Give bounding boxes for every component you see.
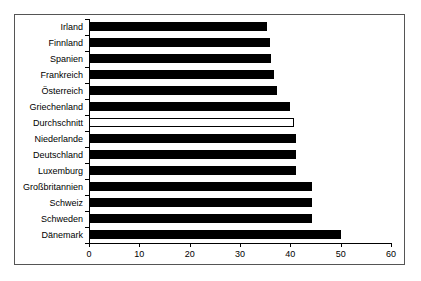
category-label: Schweden <box>0 214 83 224</box>
bar-schweden <box>89 214 312 223</box>
category-label: Finnland <box>0 38 83 48</box>
category-tick <box>85 195 89 196</box>
bar-schweiz <box>89 198 312 207</box>
chart-figure: IrlandFinnlandSpanienFrankreichÖsterreic… <box>0 0 421 281</box>
value-tick <box>190 243 191 247</box>
category-tick <box>85 115 89 116</box>
bar-row <box>89 195 391 211</box>
category-tick <box>85 51 89 52</box>
category-tick <box>85 19 89 20</box>
bar-deutschland <box>89 150 296 159</box>
bar-d-nemark <box>89 230 341 239</box>
category-tick <box>85 179 89 180</box>
bar-niederlande <box>89 134 296 143</box>
category-label: Deutschland <box>0 150 83 160</box>
bar-gro-britannien <box>89 182 312 191</box>
category-label: Luxemburg <box>0 166 83 176</box>
category-label: Frankreich <box>0 70 83 80</box>
value-tick <box>290 243 291 247</box>
bar-row <box>89 19 391 35</box>
category-tick <box>85 131 89 132</box>
value-tick-label: 30 <box>225 249 255 260</box>
value-tick-label: 0 <box>74 249 104 260</box>
bar-row <box>89 35 391 51</box>
bar--sterreich <box>89 86 277 95</box>
category-label: Durchschnitt <box>0 118 83 128</box>
value-tick-label: 60 <box>376 249 406 260</box>
bar-durchschnitt <box>89 118 294 127</box>
value-tick-label: 10 <box>124 249 154 260</box>
bar-row <box>89 211 391 227</box>
category-label: Großbritannien <box>0 182 83 192</box>
bar-row <box>89 163 391 179</box>
category-tick <box>85 35 89 36</box>
bar-row <box>89 83 391 99</box>
bar-irland <box>89 22 267 31</box>
bar-row <box>89 227 391 243</box>
category-tick <box>85 163 89 164</box>
category-tick <box>85 99 89 100</box>
category-label: Schweiz <box>0 198 83 208</box>
category-label: Spanien <box>0 54 83 64</box>
category-label: Dänemark <box>0 230 83 240</box>
bar-row <box>89 115 391 131</box>
category-label: Niederlande <box>0 134 83 144</box>
category-label: Österreich <box>0 86 83 96</box>
category-tick <box>85 83 89 84</box>
value-tick <box>341 243 342 247</box>
bar-row <box>89 99 391 115</box>
value-tick-label: 20 <box>175 249 205 260</box>
bar-griechenland <box>89 102 290 111</box>
value-tick <box>240 243 241 247</box>
value-tick <box>391 243 392 247</box>
value-tick-label: 40 <box>275 249 305 260</box>
category-tick <box>85 227 89 228</box>
category-tick <box>85 211 89 212</box>
bar-row <box>89 67 391 83</box>
bar-row <box>89 131 391 147</box>
bar-finnland <box>89 38 270 47</box>
category-label: Griechenland <box>0 102 83 112</box>
bar-row <box>89 51 391 67</box>
bar-luxemburg <box>89 166 296 175</box>
bar-row <box>89 147 391 163</box>
bar-frankreich <box>89 70 274 79</box>
category-label: Irland <box>0 22 83 32</box>
category-tick <box>85 147 89 148</box>
category-tick <box>85 67 89 68</box>
value-tick <box>139 243 140 247</box>
bar-spanien <box>89 54 271 63</box>
value-tick <box>89 243 90 247</box>
value-tick-label: 50 <box>326 249 356 260</box>
bar-row <box>89 179 391 195</box>
